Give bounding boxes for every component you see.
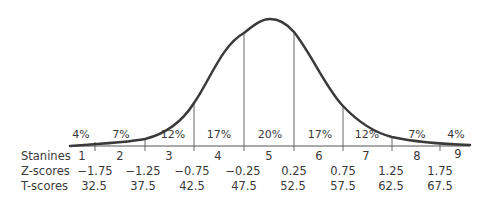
stanine-2: 2	[116, 149, 123, 163]
tscore-3: 42.5	[179, 179, 205, 193]
pct-stanine-4: 17%	[207, 128, 231, 141]
zscore-values: −1.75 −1.25 −0.75 −0.25 0.25 0.75 1.25 1…	[77, 164, 452, 178]
tscore-5: 52.5	[280, 179, 306, 193]
pct-stanine-3: 12%	[161, 128, 185, 141]
pct-stanine-9: 4%	[447, 128, 464, 141]
pct-stanine-6: 17%	[308, 128, 332, 141]
tscore-4: 47.5	[231, 179, 257, 193]
zscore-2: −1.25	[125, 164, 160, 178]
tscore-1: 32.5	[81, 179, 107, 193]
row-label-zscores: Z-scores	[21, 164, 70, 178]
stanine-9: 9	[454, 147, 461, 161]
stanine-values: 1 2 3 4 5 6 7 8 9	[78, 147, 461, 163]
stanine-5: 5	[265, 149, 272, 163]
stanine-1: 1	[78, 149, 85, 163]
pct-stanine-8: 7%	[408, 128, 425, 141]
tscore-values: 32.5 37.5 42.5 47.5 52.5 57.5 62.5 67.5	[81, 179, 453, 193]
row-label-stanines: Stanines	[21, 149, 71, 163]
zscore-6: 0.75	[330, 164, 356, 178]
tscore-8: 67.5	[427, 179, 453, 193]
stanine-7: 7	[362, 149, 369, 163]
pct-stanine-7: 12%	[355, 128, 379, 141]
stanine-4: 4	[214, 149, 221, 163]
row-labels: Stanines Z-scores T-scores	[20, 149, 71, 193]
normal-curve	[70, 19, 470, 146]
row-label-tscores: T-scores	[20, 179, 68, 193]
zscore-7: 1.25	[378, 164, 404, 178]
pct-stanine-5: 20%	[258, 128, 282, 141]
zscore-5: 0.25	[281, 164, 307, 178]
tscore-6: 57.5	[330, 179, 356, 193]
zscore-3: −0.75	[174, 164, 209, 178]
pct-stanine-2: 7%	[112, 128, 129, 141]
zscore-8: 1.75	[427, 164, 453, 178]
stanine-8: 8	[413, 149, 420, 163]
stanine-normal-curve-diagram: 4% 7% 12% 17% 20% 17% 12% 7% 4% Stanines…	[0, 0, 482, 205]
tscore-7: 62.5	[378, 179, 404, 193]
stanine-3: 3	[165, 149, 172, 163]
tscore-2: 37.5	[130, 179, 156, 193]
pct-stanine-1: 4%	[72, 128, 89, 141]
zscore-1: −1.75	[77, 164, 112, 178]
zscore-4: −0.25	[225, 164, 260, 178]
stanine-6: 6	[315, 149, 322, 163]
